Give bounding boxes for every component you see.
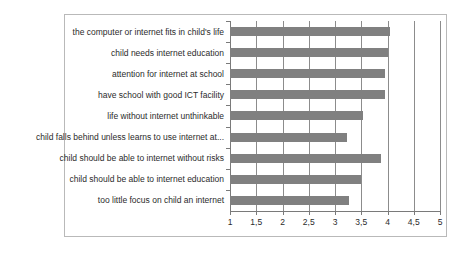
x-axis-tick: [440, 211, 441, 215]
category-label: life without internet unthinkable: [107, 111, 224, 121]
category-label: child should be able to internet educati…: [69, 174, 224, 184]
x-axis-tick: [361, 211, 362, 215]
gridline: [440, 21, 441, 211]
y-axis-tick: [226, 84, 230, 85]
chart-figure: the computer or internet fits in child's…: [0, 0, 468, 261]
x-axis-tick: [256, 211, 257, 215]
plot-area: [230, 21, 440, 211]
x-axis-tick-label: 3,5: [355, 217, 367, 227]
x-axis-tick-label: 3: [333, 217, 338, 227]
category-label-row: attention for internet at school: [66, 63, 228, 84]
y-axis-tick: [226, 21, 230, 22]
x-axis-tick-label: 4,5: [408, 217, 420, 227]
x-axis-tick: [388, 211, 389, 215]
x-axis-tick-label: 1,5: [250, 217, 262, 227]
x-axis-tick-label: 4: [385, 217, 390, 227]
category-label-row: life without internet unthinkable: [66, 105, 228, 126]
category-label-row: the computer or internet fits in child's…: [66, 21, 228, 42]
y-axis-tick: [226, 169, 230, 170]
bar: [230, 27, 390, 36]
y-axis-tick: [226, 190, 230, 191]
bar: [230, 69, 385, 78]
bar: [230, 175, 361, 184]
x-axis-tick-label: 2: [280, 217, 285, 227]
x-axis-tick: [230, 211, 231, 215]
y-axis-tick: [226, 127, 230, 128]
category-label: child falls behind unless learns to use …: [36, 132, 224, 142]
x-axis-tick: [309, 211, 310, 215]
category-label: have school with good ICT facility: [98, 90, 224, 100]
gridline: [388, 21, 389, 211]
x-axis-tick-label: 5: [438, 217, 443, 227]
category-label-row: child should be able to internet educati…: [66, 169, 228, 190]
category-label-row: child should be able to internet without…: [66, 148, 228, 169]
y-axis-tick: [226, 105, 230, 106]
x-axis-tick-label: 1: [228, 217, 233, 227]
category-label-row: child falls behind unless learns to use …: [66, 127, 228, 148]
bar: [230, 111, 363, 120]
category-label: the computer or internet fits in child's…: [73, 27, 224, 37]
x-axis-tick: [283, 211, 284, 215]
bar: [230, 90, 385, 99]
y-axis-tick: [226, 63, 230, 64]
x-axis-tick: [335, 211, 336, 215]
x-axis-tick: [414, 211, 415, 215]
bar: [230, 48, 388, 57]
category-label: child should be able to internet without…: [60, 153, 224, 163]
category-label-row: too little focus on child an internet: [66, 190, 228, 211]
category-label: child needs internet education: [111, 48, 224, 58]
bar: [230, 196, 349, 205]
category-label: too little focus on child an internet: [98, 195, 224, 205]
category-axis-labels: the computer or internet fits in child's…: [66, 21, 228, 211]
y-axis-tick: [226, 42, 230, 43]
x-axis-tick-label: 2,5: [303, 217, 315, 227]
category-label-row: child needs internet education: [66, 42, 228, 63]
bar-rows: [230, 21, 440, 211]
y-axis-tick: [226, 148, 230, 149]
category-label: attention for internet at school: [112, 69, 224, 79]
bar: [230, 133, 347, 142]
bar: [230, 154, 381, 163]
gridline: [414, 21, 415, 211]
category-label-row: have school with good ICT facility: [66, 84, 228, 105]
